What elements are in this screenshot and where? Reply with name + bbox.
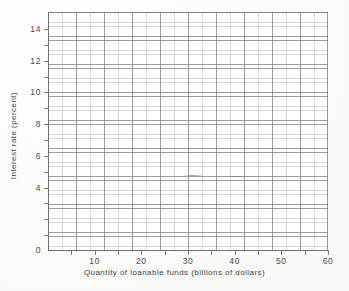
y-tick-6: [44, 156, 49, 157]
x-tick-5: [71, 250, 72, 255]
x-tick-10: [95, 250, 96, 255]
y-tick-3: [44, 203, 49, 204]
x-axis-title: Quantity of loanable funds (billions of …: [0, 268, 349, 277]
y-tick-8: [44, 124, 49, 125]
x-tick-label-30: 30: [176, 256, 200, 266]
y-axis-line: [48, 12, 49, 250]
y-tick-4: [44, 188, 49, 189]
x-tick-label-60: 60: [316, 256, 340, 266]
grid-horizontal-lines: [48, 12, 328, 250]
y-tick-9: [44, 108, 49, 109]
y-tick-10: [44, 92, 49, 93]
x-tick-50: [281, 250, 282, 255]
y-tick-label-4: 4: [25, 183, 41, 193]
y-tick-label-0: 0: [25, 245, 41, 255]
y-tick-12: [44, 61, 49, 62]
y-tick-label-6: 6: [25, 151, 41, 161]
x-tick-60: [328, 250, 329, 255]
chart-page: 14 12 10 8 6 4 0 10 20 30 40 50 60 Quant…: [0, 0, 349, 291]
y-tick-2: [44, 219, 49, 220]
y-tick-label-12: 12: [25, 56, 41, 66]
plot-area[interactable]: [48, 12, 328, 250]
x-tick-45: [258, 250, 259, 255]
x-tick-30: [188, 250, 189, 255]
x-tick-55: [305, 250, 306, 255]
plot-border-top: [48, 12, 328, 13]
y-tick-5: [44, 172, 49, 173]
x-tick-20: [141, 250, 142, 255]
x-tick-label-20: 20: [129, 256, 153, 266]
x-tick-label-50: 50: [269, 256, 293, 266]
x-tick-25: [165, 250, 166, 255]
y-tick-13: [44, 45, 49, 46]
y-tick-label-10: 10: [25, 87, 41, 97]
x-tick-35: [211, 250, 212, 255]
x-tick-40: [235, 250, 236, 255]
x-tick-15: [118, 250, 119, 255]
y-tick-label-14: 14: [25, 24, 41, 34]
y-axis-title: Interest rate (percent): [9, 76, 18, 196]
y-tick-7: [44, 140, 49, 141]
y-tick-14: [44, 29, 49, 30]
y-tick-1: [44, 235, 49, 236]
x-tick-label-10: 10: [83, 256, 107, 266]
y-tick-label-8: 8: [25, 119, 41, 129]
x-tick-label-40: 40: [223, 256, 247, 266]
plot-border-right: [327, 12, 328, 250]
y-tick-11: [44, 77, 49, 78]
